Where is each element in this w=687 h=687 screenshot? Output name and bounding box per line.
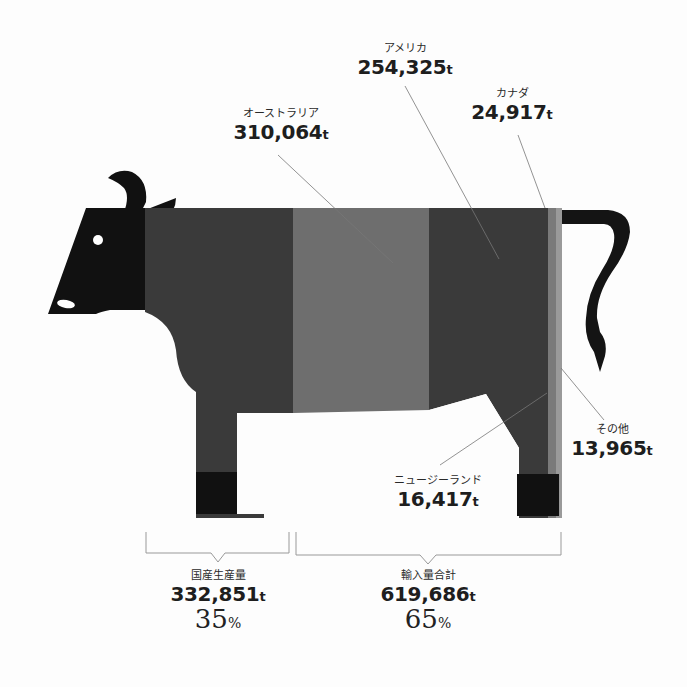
tail [562,210,630,372]
label-domestic: 国産生産量 332,851t 35% [150,570,286,632]
label-australia: オーストラリア 310,064t [216,108,346,142]
bracket-imports [296,532,561,564]
cow-chart [0,0,687,687]
horn [108,171,146,214]
head [48,208,148,314]
stripe-australia [293,208,429,413]
label-canada: カナダ 24,917t [462,88,562,122]
label-imports: 輸入量合計 619,686t 65% [360,570,496,632]
bracket-domestic [146,532,289,562]
hoof-front [196,472,237,514]
label-usa: アメリカ 254,325t [340,43,470,77]
percent-imports: 65% [360,606,496,632]
label-newzealand: ニュージーランド 16,417t [378,475,498,509]
stripe-canada [548,208,556,518]
hoof-back [517,474,559,516]
percent-domestic: 35% [150,606,286,632]
label-other: その他 13,965t [560,424,664,458]
stripe-nz-other [556,208,562,518]
eye [93,235,103,245]
